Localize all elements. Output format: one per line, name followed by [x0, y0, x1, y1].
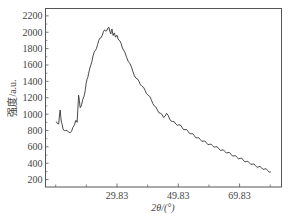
y-tick-label: 2000: [23, 27, 43, 38]
xrd-curve: [56, 27, 271, 172]
y-tick-label: 2200: [23, 10, 43, 21]
y-tick-label: 1200: [23, 92, 43, 103]
x-axis: 29.8349.8369.83: [56, 184, 271, 202]
y-axis-title: 强度/a.u.: [6, 79, 18, 116]
xrd-chart: 2004006008001000120014001600180020002200…: [0, 0, 289, 220]
x-tick-label: 29.83: [106, 190, 129, 201]
x-axis-title: 2θ/(°): [151, 202, 175, 214]
y-tick-label: 200: [28, 174, 43, 185]
y-tick-label: 1600: [23, 59, 43, 70]
x-tick-label: 49.83: [167, 190, 190, 201]
plot-frame: [46, 9, 282, 188]
y-tick-label: 1400: [23, 76, 43, 87]
x-tick-label: 69.83: [228, 190, 251, 201]
y-axis: 2004006008001000120014001600180020002200: [23, 10, 49, 185]
y-tick-label: 1000: [23, 109, 43, 120]
y-tick-label: 400: [28, 158, 43, 169]
y-tick-label: 1800: [23, 43, 43, 54]
y-tick-label: 600: [28, 141, 43, 152]
y-tick-label: 800: [28, 125, 43, 136]
